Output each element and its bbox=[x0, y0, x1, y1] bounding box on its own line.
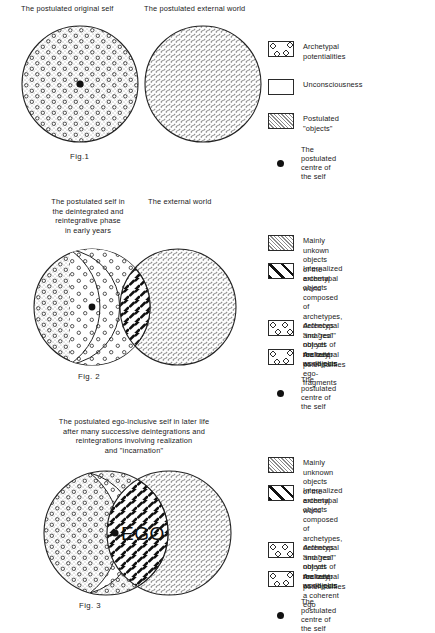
swatch-archetypal-images bbox=[268, 542, 294, 558]
swatch-archetypal-potentialities bbox=[268, 571, 294, 587]
fig2-legend-item-3: Archetypal potentialities bbox=[268, 349, 345, 369]
figure-1: The postulated original self The postula… bbox=[0, 0, 435, 190]
fig1-legend-label-1: Unconsciousness bbox=[303, 79, 362, 90]
fig2-heading-right: The external world bbox=[148, 197, 212, 207]
centre-of-self-dot-icon bbox=[277, 160, 284, 167]
fig1-legend-label-0: Archetypal potentialities bbox=[303, 41, 345, 61]
fig1-centre-of-self-dot bbox=[76, 80, 83, 87]
fig3-ego-label: EGO bbox=[121, 523, 165, 544]
swatch-unconsciousness bbox=[268, 79, 294, 95]
fig1-legend-item-2: Postulated "objects" bbox=[268, 113, 339, 133]
figure-3: The postulated ego-inclusive self in lat… bbox=[0, 405, 435, 627]
swatch-internalized-archetypal-objects bbox=[268, 263, 294, 279]
fig2-legend-label-3: Archetypal potentialities bbox=[303, 349, 345, 369]
fig3-caption: Fig. 3 bbox=[79, 601, 101, 610]
swatch-external-world-objects bbox=[268, 457, 294, 473]
fig1-diagram bbox=[18, 22, 268, 147]
fig3-legend-label-3: Archetypal potentialities bbox=[303, 571, 345, 591]
fig1-legend-item-1: Unconsciousness bbox=[268, 79, 362, 95]
fig2-caption: Fig. 2 bbox=[78, 372, 100, 381]
centre-of-self-dot-icon bbox=[277, 612, 284, 619]
fig1-centre-note-label: The postulated centre of the self bbox=[301, 145, 336, 181]
fig3-centre-of-self-dot bbox=[111, 529, 118, 536]
fig1-heading-left: The postulated original self bbox=[21, 4, 114, 14]
fig3-centre-note-label: The postulated centre of the self bbox=[301, 597, 336, 633]
swatch-postulated-objects bbox=[268, 113, 294, 129]
fig1-caption: Fig.1 bbox=[70, 152, 89, 161]
figure-2: The postulated self in the deintegrated … bbox=[0, 190, 435, 405]
fig1-heading-right: The postulated external world bbox=[144, 4, 245, 14]
fig2-heading-left: The postulated self in the deintegrated … bbox=[34, 197, 142, 235]
fig3-legend-item-3: Archetypal potentialities bbox=[268, 571, 345, 591]
fig1-legend-centre-note: The postulated centre of the self bbox=[268, 145, 336, 181]
centre-of-self-dot-icon bbox=[277, 390, 284, 397]
fig3-diagram: EGO bbox=[38, 467, 243, 599]
fig2-centre-of-self-dot bbox=[89, 304, 96, 311]
swatch-archetypal-potentialities bbox=[268, 41, 294, 57]
fig1-external-world-circle bbox=[145, 26, 261, 142]
fig1-legend-label-2: Postulated "objects" bbox=[303, 113, 339, 133]
fig1-legend-item-0: Archetypal potentialities bbox=[268, 41, 345, 61]
fig3-legend-centre-note: The postulated centre of the self bbox=[268, 597, 336, 633]
swatch-archetypal-potentialities bbox=[268, 349, 294, 365]
fig2-diagram bbox=[30, 245, 250, 370]
fig3-heading: The postulated ego-inclusive self in lat… bbox=[18, 417, 250, 455]
swatch-archetypal-images bbox=[268, 320, 294, 336]
swatch-external-world-objects bbox=[268, 235, 294, 251]
swatch-internalized-archetypal-objects bbox=[268, 485, 294, 501]
